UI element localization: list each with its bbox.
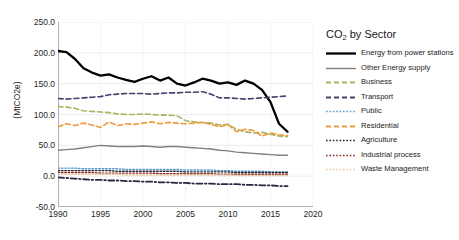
legend-title-subscript: 2	[343, 33, 347, 42]
legend-swatch-icon	[326, 78, 356, 87]
series-line	[58, 145, 288, 155]
legend-item-label: Residential	[361, 122, 399, 131]
legend-item[interactable]: Industrial process	[326, 151, 459, 160]
legend-item-label: Transport	[361, 93, 393, 102]
chart-container: 250.0200.0150.0100.050.00.0-50.0 (MtCO2e…	[0, 0, 459, 240]
series-line	[58, 122, 288, 136]
legend-swatch-icon	[326, 49, 356, 58]
y-tick-label: 0.0	[43, 172, 55, 181]
legend-item[interactable]: Agriculture	[326, 136, 459, 145]
y-tick-label: 200.0	[34, 49, 55, 58]
legend-swatch-icon	[326, 165, 356, 174]
x-tick-label: 2005	[176, 210, 195, 219]
series-line	[58, 106, 288, 136]
legend-item[interactable]: Business	[326, 78, 459, 87]
x-tick-label: 1995	[91, 210, 110, 219]
legend-swatch-icon	[326, 64, 356, 73]
legend-item-label: Agriculture	[361, 136, 397, 145]
plot-area	[58, 22, 313, 207]
legend-swatch-icon	[326, 93, 356, 102]
legend-item[interactable]: Waste Management	[326, 165, 459, 174]
series-canvas	[58, 22, 313, 207]
y-tick-label: 100.0	[34, 111, 55, 120]
legend-item[interactable]: Energy from power stations	[326, 49, 459, 58]
legend-swatch-icon	[326, 151, 356, 160]
y-tick-label: 150.0	[34, 80, 55, 89]
y-tick-label: 50.0	[38, 141, 55, 150]
legend-items: Energy from power stationsOther Energy s…	[326, 49, 459, 174]
legend-item-label: Industrial process	[361, 151, 421, 160]
legend-item-label: Waste Management	[361, 165, 429, 174]
legend-swatch-icon	[326, 107, 356, 116]
x-tick-label: 2000	[134, 210, 153, 219]
x-tick-label: 2015	[261, 210, 280, 219]
legend-title-base: CO	[326, 28, 343, 40]
x-axis-tick-labels: 1990199520002005201020152020	[0, 210, 400, 226]
y-axis-label: (MtCO2e)	[12, 70, 22, 130]
legend-item[interactable]: Other Energy supply	[326, 64, 459, 73]
y-tick-label: 250.0	[34, 18, 55, 27]
series-line	[58, 92, 288, 99]
legend-item[interactable]: Public	[326, 107, 459, 116]
series-line	[58, 51, 288, 132]
legend-title-rest: by Sector	[347, 28, 397, 40]
legend-item-label: Business	[361, 78, 392, 87]
y-axis-tick-labels: 250.0200.0150.0100.050.00.0-50.0	[0, 0, 55, 240]
legend-item-label: Other Energy supply	[361, 64, 430, 73]
legend-item-label: Public	[361, 107, 382, 116]
x-tick-label: 1990	[49, 210, 68, 219]
x-tick-label: 2020	[304, 210, 323, 219]
legend-item[interactable]: Transport	[326, 93, 459, 102]
legend-item-label: Energy from power stations	[361, 49, 453, 58]
series-line	[58, 177, 288, 186]
legend-swatch-icon	[326, 122, 356, 131]
x-tick-label: 2010	[219, 210, 238, 219]
legend: CO2 by Sector Energy from power stations…	[326, 28, 459, 180]
legend-title: CO2 by Sector	[326, 28, 459, 40]
legend-swatch-icon	[326, 136, 356, 145]
legend-item[interactable]: Residential	[326, 122, 459, 131]
